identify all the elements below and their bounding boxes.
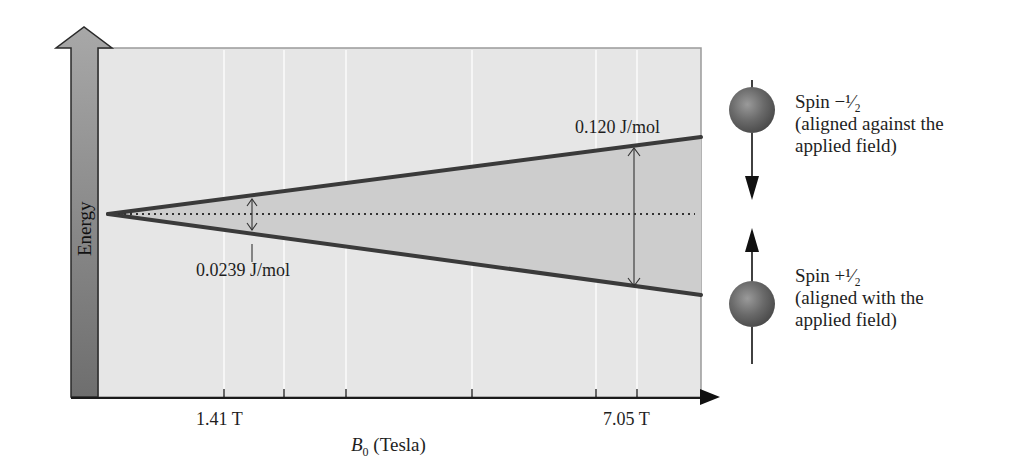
field-symbol: B0 <box>351 434 369 455</box>
field-unit: (Tesla) <box>373 434 425 455</box>
spin-plus-half-description: Spin +¹⁄₂ (aligned with the applied fiel… <box>795 265 924 331</box>
tick-label-1-41T: 1.41 T <box>196 409 243 430</box>
spin-plus-half-line2: (aligned with the <box>795 287 924 309</box>
nucleus-sphere-icon <box>729 281 775 327</box>
field-axis-title: B0 (Tesla) <box>351 434 426 460</box>
spin-minus-half-nucleus <box>729 80 775 200</box>
large-gap-label: 0.120 J/mol <box>575 117 660 138</box>
spin-minus-half-line3: applied field) <box>795 135 944 157</box>
small-gap-label: 0.0239 J/mol <box>196 260 290 281</box>
field-axis-arrowhead <box>700 389 720 405</box>
spin-minus-half-description: Spin −¹⁄₂ (aligned against the applied f… <box>795 91 944 157</box>
arrow-up-icon <box>745 228 759 252</box>
spin-plus-half-title: Spin +¹⁄₂ <box>795 265 924 287</box>
spin-plus-half-nucleus <box>729 228 775 364</box>
energy-axis-label: Energy <box>74 201 96 256</box>
tick-label-7-05T: 7.05 T <box>603 409 650 430</box>
arrow-down-icon <box>745 176 759 200</box>
spin-minus-half-title: Spin −¹⁄₂ <box>795 91 944 113</box>
diagram-canvas <box>0 0 1035 468</box>
spin-minus-half-line2: (aligned against the <box>795 113 944 135</box>
spin-plus-half-line3: applied field) <box>795 309 924 331</box>
nucleus-sphere-icon <box>729 87 775 133</box>
